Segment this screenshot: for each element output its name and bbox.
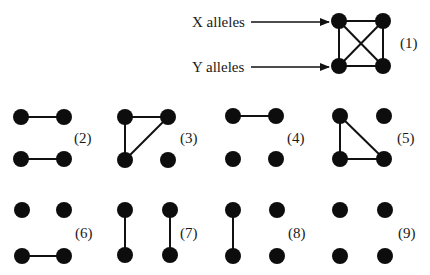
node-bl — [332, 248, 348, 264]
node-tr — [376, 108, 392, 124]
node-tr — [162, 202, 178, 218]
node-tr — [268, 108, 284, 124]
node-br — [160, 152, 176, 168]
graph-label: (9) — [398, 225, 416, 242]
node-tl — [331, 13, 347, 29]
edge-tr-bl — [125, 117, 168, 160]
node-bl — [117, 152, 133, 168]
node-tr — [377, 202, 393, 218]
graph-label: (3) — [180, 130, 198, 147]
node-tl — [332, 202, 348, 218]
graph-1: (1) — [331, 13, 418, 74]
graph-7: (7) — [117, 202, 198, 263]
node-tr — [56, 109, 72, 125]
node-br — [162, 247, 178, 263]
graph-label: (6) — [75, 225, 93, 242]
graph-label: (8) — [288, 225, 306, 242]
graph-3: (3) — [117, 109, 198, 168]
node-tl — [225, 202, 241, 218]
node-tl — [117, 109, 133, 125]
node-bl — [13, 151, 29, 167]
node-tr — [269, 202, 285, 218]
graph-label: (1) — [400, 35, 418, 52]
graph-8: (8) — [225, 202, 306, 264]
graph-9: (9) — [332, 202, 416, 264]
graph-collection: (1)(2)(3)(4)(5)(6)(7)(8)(9) — [13, 13, 418, 264]
node-bl — [225, 248, 241, 264]
x-alleles-label: X alleles — [192, 14, 245, 30]
node-br — [376, 151, 392, 167]
node-bl — [14, 248, 30, 264]
node-br — [268, 151, 284, 167]
node-bl — [225, 151, 241, 167]
node-bl — [331, 58, 347, 74]
edge-tl-br — [340, 116, 384, 159]
graph-label: (7) — [180, 225, 198, 242]
node-tl — [332, 108, 348, 124]
graph-label: (4) — [287, 130, 305, 147]
node-br — [56, 151, 72, 167]
y-alleles-label: Y alleles — [192, 59, 245, 75]
node-tl — [14, 202, 30, 218]
node-tl — [13, 109, 29, 125]
allele-graph-diagram: X alleles Y alleles (1)(2)(3)(4)(5)(6)(7… — [0, 0, 430, 275]
node-br — [377, 248, 393, 264]
node-tr — [375, 13, 391, 29]
graph-6: (6) — [14, 202, 93, 264]
graph-4: (4) — [225, 108, 305, 167]
node-tr — [56, 202, 72, 218]
node-br — [56, 248, 72, 264]
node-br — [375, 58, 391, 74]
node-tr — [160, 109, 176, 125]
graph-2: (2) — [13, 109, 92, 167]
node-tl — [225, 108, 241, 124]
graph-label: (2) — [74, 130, 92, 147]
node-br — [269, 248, 285, 264]
node-bl — [332, 151, 348, 167]
graph-5: (5) — [332, 108, 415, 167]
graph-label: (5) — [397, 130, 415, 147]
node-tl — [117, 202, 133, 218]
node-bl — [117, 247, 133, 263]
